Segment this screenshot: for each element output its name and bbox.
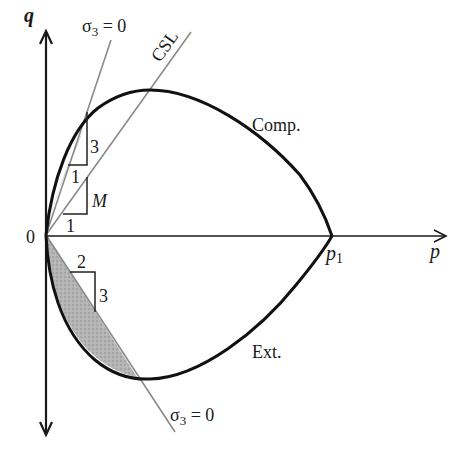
- slope-run-1-upper: 1: [71, 167, 80, 187]
- slope-run-1-csl: 1: [66, 216, 75, 236]
- sigma3-upper-label: σ3 = 0: [82, 16, 126, 39]
- sigma3-lower-label: σ3 = 0: [170, 405, 214, 428]
- extension-label: Ext.: [252, 342, 282, 362]
- slope-rise-3-lower: 3: [99, 286, 108, 306]
- yield-surface-diagram: q 0 p p1 σ3 = 0 CSL σ3 = 0 Comp. Ext. 3 …: [0, 0, 464, 461]
- sigma3-zero-line-lower: [46, 235, 175, 432]
- compression-label: Comp.: [252, 115, 301, 135]
- csl-line: [46, 32, 191, 235]
- csl-label: CSL: [147, 27, 182, 66]
- p1-label: p1: [324, 242, 343, 266]
- origin-label: 0: [26, 227, 35, 247]
- p-axis: [46, 230, 446, 242]
- compression-yield-curve: [46, 90, 332, 236]
- slope-rise-3-upper: 3: [90, 137, 99, 157]
- p-axis-label: p: [428, 240, 440, 263]
- slope-run-2-lower: 2: [77, 252, 86, 272]
- q-axis-label: q: [24, 4, 34, 27]
- slope-rise-m: M: [91, 191, 108, 211]
